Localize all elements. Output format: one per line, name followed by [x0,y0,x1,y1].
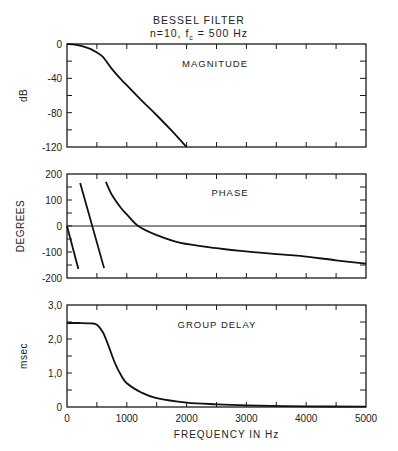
panel-group-delay: 3,02,01,00msecGROUP DELAY010002000300040… [18,300,378,440]
panel-title: PHASE [211,187,248,198]
y-tick-label: -120 [42,142,62,153]
y-tick-label: 1,0 [48,368,62,379]
y-tick-label: -100 [42,247,62,258]
y-tick-label: 0 [56,39,62,50]
panel-magnitude: 0-40-80-120dBMAGNITUDE [18,39,366,153]
x-tick-label: 1000 [116,413,139,424]
y-tick-label: 0 [56,221,62,232]
x-tick-label: 5000 [355,413,378,424]
x-tick-label: 0 [64,413,70,424]
x-tick-label: 2000 [175,413,198,424]
y-axis-label: DEGREES [15,200,26,252]
data-series-line [67,226,78,269]
y-tick-label: 100 [45,195,62,206]
panel-phase: 2001000-100-200DEGREESPHASE [15,169,366,284]
y-tick-label: 0 [56,402,62,413]
y-axis-label: msec [18,343,29,369]
x-tick-label: 3000 [235,413,258,424]
data-series-line [67,323,366,407]
y-tick-label: 3,0 [48,300,62,311]
y-axis-label: dB [18,89,29,102]
figure-canvas: 0-40-80-120dBMAGNITUDE2001000-100-200DEG… [0,0,398,451]
x-axis-label: FREQUENCY IN Hz [174,429,279,440]
y-tick-label: 2,0 [48,334,62,345]
y-tick-label: -80 [48,108,63,119]
x-tick-label: 4000 [295,413,318,424]
data-series-line [67,44,187,147]
panel-title: GROUP DELAY [178,319,257,330]
y-tick-label: -200 [42,273,62,284]
y-tick-label: 200 [45,169,62,180]
y-tick-label: -40 [48,73,63,84]
panel-title: MAGNITUDE [182,58,248,69]
